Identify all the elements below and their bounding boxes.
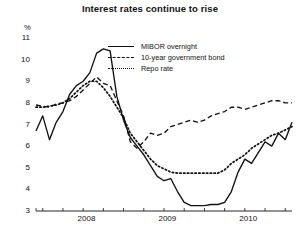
legend-item[interactable]: MIBOR overnight bbox=[108, 41, 225, 52]
legend-label: 10-year government bond bbox=[141, 52, 225, 63]
legend-swatch-solid-icon bbox=[108, 42, 134, 51]
legend-swatch-dashed-icon bbox=[108, 53, 134, 62]
chart-figure: Interest rates continue to rise % 345678… bbox=[0, 0, 300, 239]
chart-legend: MIBOR overnight10-year government bondRe… bbox=[108, 41, 225, 74]
legend-swatch-dotted-icon bbox=[108, 64, 134, 73]
legend-label: Repo rate bbox=[141, 63, 173, 74]
plot-area bbox=[0, 0, 300, 239]
legend-item[interactable]: 10-year government bond bbox=[108, 52, 225, 63]
legend-item[interactable]: Repo rate bbox=[108, 63, 225, 74]
legend-label: MIBOR overnight bbox=[141, 41, 197, 52]
